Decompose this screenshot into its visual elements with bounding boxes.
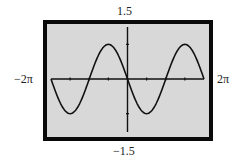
calculator-screen: [0, 0, 240, 162]
